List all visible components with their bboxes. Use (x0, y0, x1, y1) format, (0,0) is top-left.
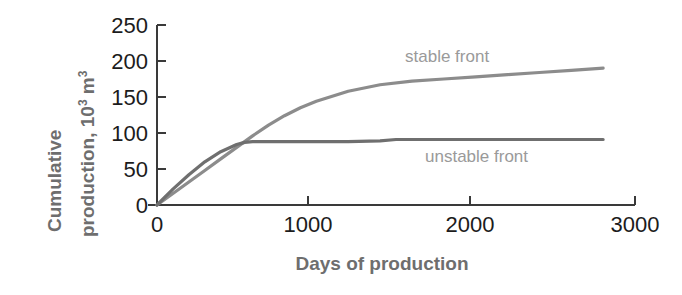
chart-figure: Cumulative production, 103 m3 250 200 15… (0, 0, 682, 295)
series-line-stable-front (157, 68, 603, 205)
x-axis-label: Days of production (232, 253, 532, 275)
series-label-stable-front: stable front (405, 47, 489, 67)
series-line-unstable-front (157, 139, 603, 205)
series-label-unstable-front: unstable front (425, 147, 528, 167)
plot-area (0, 0, 682, 295)
